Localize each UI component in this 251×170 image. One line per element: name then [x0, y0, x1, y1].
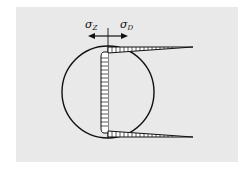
bottom-stress-spike: [108, 131, 193, 137]
sigma-d-label: σD: [120, 18, 134, 32]
inner-stress-band: [101, 52, 108, 133]
top-stress-spike: [108, 47, 193, 53]
left-arrow-icon: [88, 33, 108, 39]
sigma-z-label: σZ: [85, 18, 98, 32]
stress-diagram: σZ σD: [0, 0, 251, 170]
right-arrow-icon: [108, 33, 128, 39]
